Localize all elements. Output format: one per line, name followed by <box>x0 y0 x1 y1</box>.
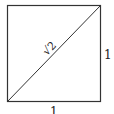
diagonal-label: √2 <box>40 39 59 58</box>
unit-square-diagram: √2 1 1 <box>0 0 114 114</box>
diagonal-line <box>8 6 101 102</box>
right-side-label: 1 <box>104 48 112 62</box>
bottom-side-label: 1 <box>50 105 58 114</box>
